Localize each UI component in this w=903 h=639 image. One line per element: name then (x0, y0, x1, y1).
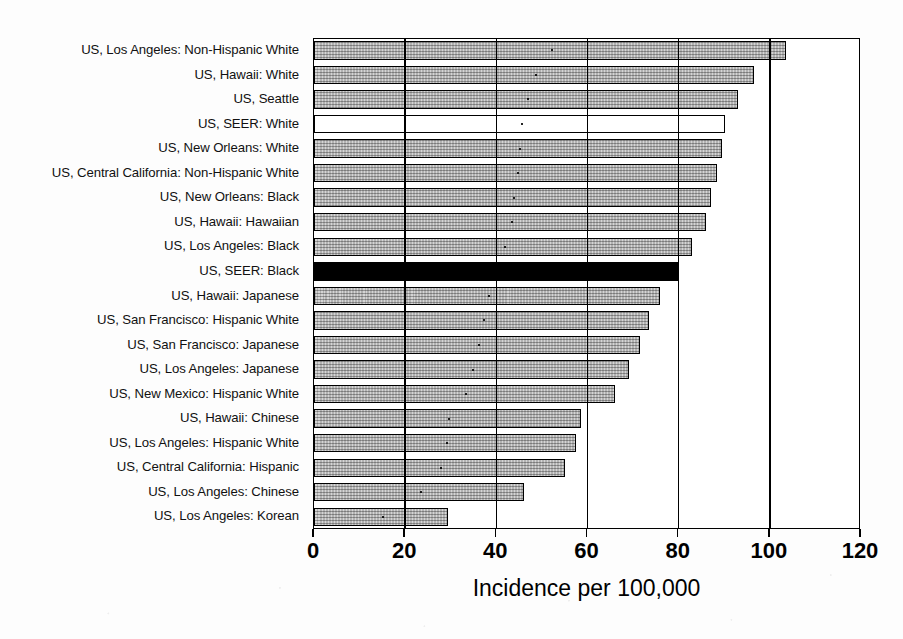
x-axis-tick-label: 80 (665, 538, 689, 564)
x-axis-tick (495, 529, 497, 537)
bar (314, 287, 660, 305)
bar (314, 459, 565, 477)
category-label: US, San Francisco: Japanese (127, 333, 299, 358)
x-axis-tick (677, 529, 679, 537)
bar (314, 311, 649, 329)
x-axis-tick-label: 40 (483, 538, 507, 564)
x-axis-tick-label: 60 (574, 538, 598, 564)
x-axis-tick-label: 120 (842, 538, 879, 564)
bar (314, 139, 722, 157)
bar-mid-marker (440, 467, 442, 469)
bar (314, 164, 717, 182)
bar (314, 41, 786, 59)
x-axis-tick (586, 529, 588, 537)
x-axis-tick (312, 529, 314, 537)
bar (314, 385, 615, 403)
chart-figure: US, Los Angeles: Non-Hispanic WhiteUS, H… (0, 0, 903, 639)
category-label: US, Hawaii: White (194, 63, 299, 88)
bar-mid-marker (478, 344, 480, 346)
category-label: US, New Orleans: Black (160, 185, 299, 210)
bar-mid-marker (483, 319, 485, 321)
bar-mid-marker (551, 49, 553, 51)
category-label: US, Central California: Non-Hispanic Whi… (52, 161, 299, 186)
bar-mid-marker (446, 442, 448, 444)
bar (314, 188, 711, 206)
bar-mid-marker (527, 98, 529, 100)
gridline (678, 39, 679, 528)
gridline (769, 39, 770, 528)
bar (314, 483, 524, 501)
category-label: US, SEER: Black (199, 259, 299, 284)
category-label: US, SEER: White (198, 112, 299, 137)
x-axis-tick-label: 20 (392, 538, 416, 564)
bar-mid-marker (517, 172, 519, 174)
category-label: US, Central California: Hispanic (117, 455, 299, 480)
category-label: US, Los Angeles: Hispanic White (109, 431, 299, 456)
x-axis-tick (403, 529, 405, 537)
gridline (496, 39, 497, 528)
cropped-header-text (313, 0, 860, 3)
bar-mid-marker (497, 270, 499, 272)
category-label: US, Hawaii: Chinese (180, 406, 299, 431)
x-axis-tick (768, 529, 770, 537)
bar-mid-marker (420, 491, 422, 493)
bar (314, 115, 725, 133)
category-label: US, New Mexico: Hispanic White (109, 382, 299, 407)
bar (314, 90, 738, 108)
bar (314, 213, 706, 231)
category-axis-labels: US, Los Angeles: Non-Hispanic WhiteUS, H… (0, 38, 308, 529)
category-label: US, Seattle (233, 87, 299, 112)
bar-mid-marker (382, 516, 384, 518)
bar-mid-marker (513, 197, 515, 199)
x-axis-title: Incidence per 100,000 (313, 575, 860, 602)
category-label: US, Los Angeles: Japanese (139, 357, 299, 382)
category-label: US, New Orleans: White (158, 136, 299, 161)
bar-mid-marker (465, 393, 467, 395)
category-label: US, Los Angeles: Black (164, 234, 299, 259)
category-label: US, Hawaii: Japanese (171, 284, 299, 309)
category-label: US, Los Angeles: Korean (154, 504, 299, 529)
bar (314, 66, 754, 84)
bar (314, 508, 448, 526)
category-label: US, San Francisco: Hispanic White (97, 308, 299, 333)
x-axis-tick-label: 0 (307, 538, 319, 564)
value-axis: 020406080100120 (313, 529, 860, 541)
bar-mid-marker (519, 148, 521, 150)
bar-mid-marker (521, 123, 523, 125)
gridline (404, 39, 405, 528)
bar (314, 360, 629, 378)
bar-mid-marker (535, 74, 537, 76)
bar (314, 336, 640, 354)
plot-area (313, 38, 860, 529)
category-label: US, Hawaii: Hawaiian (174, 210, 299, 235)
x-axis-tick-label: 100 (750, 538, 787, 564)
bar (314, 238, 692, 256)
x-axis-tick (859, 529, 861, 537)
bar-mid-marker (472, 369, 474, 371)
bar-mid-marker (504, 246, 506, 248)
bar (314, 409, 581, 427)
category-label: US, Los Angeles: Non-Hispanic White (81, 38, 299, 63)
bar-mid-marker (511, 221, 513, 223)
bar-mid-marker (488, 295, 490, 297)
gridline (587, 39, 588, 528)
category-label: US, Los Angeles: Chinese (148, 480, 299, 505)
bar (314, 434, 576, 452)
bar-mid-marker (448, 418, 450, 420)
